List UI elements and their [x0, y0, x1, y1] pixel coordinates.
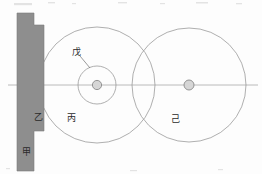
figure-canvas: 甲 乙 丙 戊 己 [0, 0, 262, 174]
technical-drawing: 甲 乙 丙 戊 己 [0, 0, 262, 174]
label-bing: 丙 [67, 113, 76, 123]
label-ji: 己 [171, 114, 180, 124]
label-wu: 戊 [72, 46, 81, 57]
right-hub-center [184, 80, 194, 90]
label-jia: 甲 [22, 147, 31, 157]
left-hub-center [92, 80, 101, 89]
leader-line-wu [80, 56, 90, 68]
label-yi: 乙 [34, 112, 43, 122]
